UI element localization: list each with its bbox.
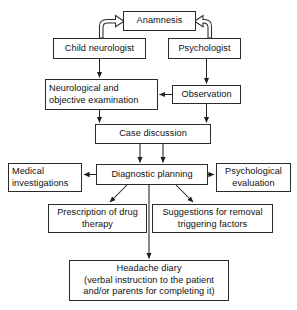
node-psychologist[interactable]: Psychologist — [168, 38, 241, 59]
node-observation[interactable]: Observation — [172, 85, 241, 104]
node-neuro-exam-text: Neurological and objective examination — [49, 83, 155, 106]
node-headache-diary-text: Headache diary (verbal instruction to th… — [72, 263, 226, 298]
node-headache-diary[interactable]: Headache diary (verbal instruction to th… — [69, 260, 229, 301]
node-prescription-line-2: therapy — [82, 219, 113, 229]
edge-diagnostic-planning-to-prescription — [110, 185, 127, 202]
node-prescription-line-1: Prescription of drug — [57, 207, 138, 217]
node-headache-diary-line-2: (verbal instruction to the patient — [84, 275, 214, 285]
flowchart-canvas: Anamnesis Child neurologist Psychologist… — [0, 0, 297, 310]
node-diagnostic-planning-label: Diagnostic planning — [99, 169, 205, 181]
node-medical-investigations-text: Medical investigations — [12, 166, 79, 189]
edge-child-neurologist-to-anamnesis — [100, 16, 125, 39]
node-observation-label: Observation — [175, 89, 238, 101]
node-suggestions-text: Suggestions for removal triggering facto… — [155, 207, 270, 230]
node-case-discussion-label: Case discussion — [98, 128, 208, 140]
node-diagnostic-planning[interactable]: Diagnostic planning — [96, 164, 208, 185]
node-prescription-text: Prescription of drug therapy — [51, 207, 144, 230]
node-suggestions-line-1: Suggestions for removal — [162, 207, 262, 217]
node-psychological-evaluation-text: Psychological evaluation — [219, 166, 288, 189]
node-prescription-of-drug-therapy[interactable]: Prescription of drug therapy — [48, 204, 147, 233]
node-medical-investigations-line-1: Medical — [12, 166, 44, 176]
node-suggestions-for-removal-triggering-factors[interactable]: Suggestions for removal triggering facto… — [152, 204, 273, 233]
node-medical-investigations-line-2: investigations — [12, 178, 68, 188]
edge-psychologist-to-anamnesis — [195, 16, 212, 39]
node-anamnesis[interactable]: Anamnesis — [123, 11, 196, 31]
node-headache-diary-line-3: and/or parents for completing it) — [83, 286, 214, 296]
node-psychological-evaluation-line-1: Psychological — [225, 166, 282, 176]
node-neuro-exam-line-2: objective examination — [49, 95, 138, 105]
node-headache-diary-line-1: Headache diary — [116, 263, 181, 273]
node-psychological-evaluation[interactable]: Psychological evaluation — [216, 163, 291, 192]
edge-diagnostic-planning-to-suggestions — [176, 185, 193, 202]
node-psychologist-label: Psychologist — [171, 43, 238, 55]
node-medical-investigations[interactable]: Medical investigations — [8, 163, 82, 192]
node-neuro-exam-line-1: Neurological and — [49, 83, 119, 93]
node-anamnesis-label: Anamnesis — [126, 15, 193, 27]
node-case-discussion[interactable]: Case discussion — [95, 124, 211, 144]
node-child-neurologist[interactable]: Child neurologist — [53, 38, 146, 59]
node-child-neurologist-label: Child neurologist — [56, 43, 143, 55]
node-suggestions-line-2: triggering factors — [178, 219, 247, 229]
node-neurological-objective-examination[interactable]: Neurological and objective examination — [45, 79, 158, 110]
node-psychological-evaluation-line-2: evaluation — [232, 178, 274, 188]
